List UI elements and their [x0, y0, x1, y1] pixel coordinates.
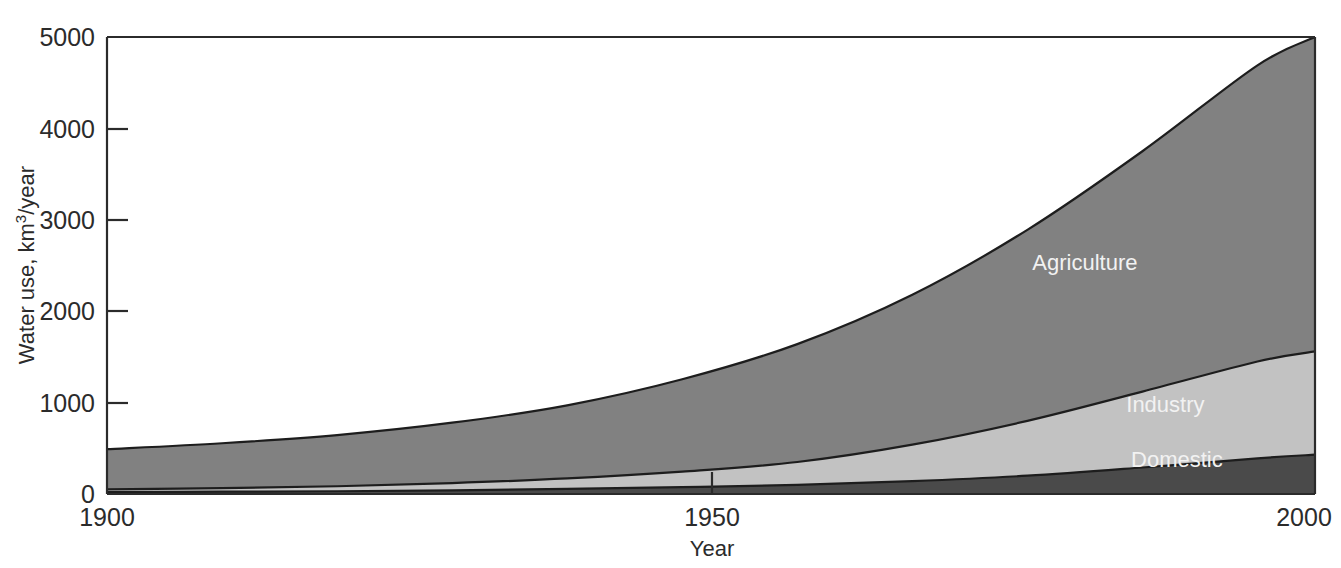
x-tick-label-2000: 2000	[1276, 503, 1332, 531]
y-tick-label-4000: 4000	[39, 115, 95, 143]
x-axis-title: Year	[690, 536, 734, 561]
chart-canvas: Agriculture Industry Domestic 5000 4000 …	[0, 0, 1341, 568]
series-label-industry: Industry	[1126, 392, 1204, 417]
series-label-domestic: Domestic	[1131, 447, 1223, 472]
y-tick-label-2000: 2000	[39, 297, 95, 325]
y-axis-title: Water use, km3/year	[12, 166, 39, 364]
y-axis-title-post: /year	[14, 166, 39, 215]
y-tick-label-1000: 1000	[39, 389, 95, 417]
y-tick-label-5000: 5000	[39, 23, 95, 51]
y-axis-title-superscript: 3	[12, 215, 29, 223]
y-axis-title-pre: Water use, km	[14, 223, 39, 364]
x-tick-label-1900: 1900	[79, 503, 135, 531]
series-label-agriculture: Agriculture	[1032, 250, 1137, 275]
svg-text:Water use, km3/year: Water use, km3/year	[12, 166, 39, 364]
x-tick-label-1950: 1950	[684, 503, 740, 531]
water-use-area-chart: Agriculture Industry Domestic 5000 4000 …	[0, 0, 1341, 568]
y-tick-label-3000: 3000	[39, 206, 95, 234]
